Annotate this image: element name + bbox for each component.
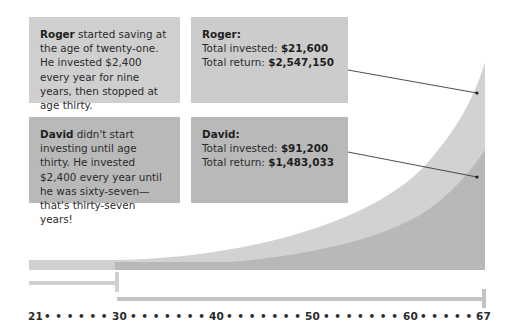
roger-return-label: Total return: (202, 56, 268, 68)
roger-timeline-end-tick (115, 272, 119, 292)
roger-totals-box: Roger: Total invested: $21,600 Total ret… (191, 17, 348, 103)
david-return-label: Total return: (202, 156, 268, 168)
roger-invested-label: Total invested: (202, 42, 281, 54)
axis-tick-30: 30 (112, 310, 127, 322)
david-totals-box: David: Total invested: $91,200 Total ret… (191, 117, 348, 203)
david-timeline-bar (117, 297, 484, 301)
roger-invested-value: $21,600 (281, 42, 328, 54)
david-invested-value: $91,200 (281, 142, 328, 154)
roger-totals-title: Roger: (202, 28, 241, 40)
axis-dots-50-60: • • • • • • • • • • • • (323, 310, 402, 322)
david-story-box: David didn't start investing until age t… (29, 117, 180, 203)
david-invested-label: Total invested: (202, 142, 281, 154)
david-timeline-end-tick (482, 289, 486, 308)
david-return-value: $1,483,033 (268, 156, 334, 168)
roger-leader-dot (475, 91, 478, 94)
david-baseline-band (115, 262, 485, 270)
axis-tick-40: 40 (209, 310, 224, 322)
roger-story-box: Roger started saving at the age of twent… (29, 17, 180, 103)
axis-dots-30-40: • • • • • • • • • • • • (130, 310, 208, 322)
david-name: David (40, 128, 73, 140)
axis-dots-21-30: • • • • • • • • • • • • (44, 310, 110, 322)
roger-leader-line (348, 70, 477, 93)
axis-tick-21: 21 (28, 310, 43, 322)
axis-dots-60-67: • • • • • • • • • • • • (420, 310, 476, 322)
roger-return-value: $2,547,150 (268, 56, 334, 68)
axis-dots-40-50: • • • • • • • • • • • • (226, 310, 304, 322)
roger-story-text: started saving at the age of twenty-one.… (40, 28, 166, 111)
david-totals-title: David: (202, 128, 240, 140)
roger-name: Roger (40, 28, 75, 40)
axis-tick-50: 50 (305, 310, 320, 322)
axis-tick-67: 67 (476, 310, 491, 322)
david-leader-dot (475, 175, 478, 178)
roger-timeline-bar (29, 281, 117, 285)
axis-tick-60: 60 (403, 310, 418, 322)
roger-baseline-band (29, 260, 115, 270)
